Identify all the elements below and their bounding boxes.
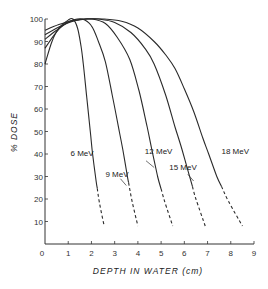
- curve-extrapolated-15mev: [193, 187, 206, 226]
- x-tick-label: 5: [159, 249, 164, 258]
- x-tick-label: 2: [89, 249, 94, 258]
- x-tick-label: 1: [66, 249, 71, 258]
- y-tick-label: 40: [34, 150, 43, 159]
- x-tick-label: 8: [229, 249, 234, 258]
- x-tick-label: 3: [112, 249, 117, 258]
- x-tick-label: 7: [205, 249, 210, 258]
- curve-extrapolated-6mev: [97, 189, 104, 227]
- x-tick-label: 9: [252, 249, 257, 258]
- curve-extrapolated-12mev: [161, 189, 173, 226]
- x-axis-title: DEPTH IN WATER (cm): [93, 266, 203, 276]
- axes: 0123456789102030405060708090100: [30, 15, 257, 258]
- y-tick-label: 80: [34, 60, 43, 69]
- series-label: 6 MeV: [71, 149, 95, 158]
- depth-dose-chart: 0123456789102030405060708090100 6 MeV9 M…: [0, 0, 268, 289]
- y-tick-label: 70: [34, 83, 43, 92]
- series-label: 18 MeV: [221, 147, 249, 156]
- series-label: 9 MeV: [105, 170, 129, 179]
- series-label: 12 MeV: [145, 147, 173, 156]
- curve-12mev: [45, 19, 161, 189]
- curve-18mev: [45, 19, 222, 187]
- curve-6mev: [45, 18, 97, 188]
- series-labels: 6 MeV9 MeV12 MeV15 MeV18 MeV: [71, 147, 250, 179]
- curve-extrapolated-9mev: [129, 183, 138, 226]
- label-leader-line: [146, 161, 154, 168]
- series-label: 15 MeV: [169, 163, 197, 172]
- y-axis-title: % DOSE: [9, 112, 19, 152]
- y-tick-label: 20: [34, 195, 43, 204]
- y-tick-label: 100: [30, 15, 44, 24]
- y-tick-label: 10: [34, 218, 43, 227]
- dose-curves: [45, 18, 242, 226]
- y-tick-label: 30: [34, 173, 43, 182]
- label-leader-line: [120, 179, 126, 186]
- y-tick-label: 50: [34, 128, 43, 137]
- x-tick-label: 4: [136, 249, 141, 258]
- x-tick-label: 6: [182, 249, 187, 258]
- y-tick-label: 90: [34, 38, 43, 47]
- x-tick-label: 0: [40, 249, 45, 258]
- curve-15mev: [45, 19, 193, 187]
- curve-extrapolated-18mev: [222, 186, 243, 226]
- y-tick-label: 60: [34, 105, 43, 114]
